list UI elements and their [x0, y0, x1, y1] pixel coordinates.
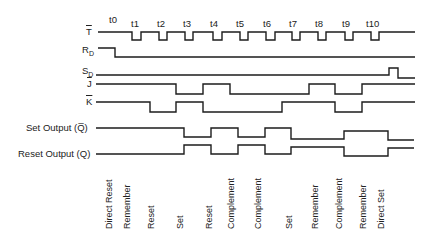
signal-label-sd: SD: [82, 65, 93, 78]
j-waveform: [96, 84, 415, 94]
sd-waveform: [96, 68, 415, 78]
event-label: Direct Reset: [104, 179, 114, 229]
event-label: Reset: [146, 205, 156, 229]
signal-label-rd: RD: [82, 44, 94, 57]
event-label: Complement: [253, 178, 263, 229]
time-label-t7: t7: [289, 18, 297, 29]
time-label-t2: t2: [157, 18, 165, 29]
signal-label-t: T: [86, 26, 92, 37]
event-label: Set: [175, 215, 185, 229]
event-label: Remember: [310, 184, 320, 229]
signal-label-j: J: [87, 78, 92, 89]
time-label-t6: t6: [263, 18, 271, 29]
time-label-t9: t9: [342, 18, 350, 29]
signal-label-set-output: Set Output (Q̅): [26, 122, 88, 133]
k-waveform: [96, 102, 415, 112]
event-label: Direct Set: [376, 189, 386, 229]
time-label-t1: t1: [131, 18, 139, 29]
t-clock-waveform: [98, 32, 415, 40]
set-output-waveform: [96, 128, 414, 140]
time-label-t0: t0: [109, 14, 117, 25]
event-label: Complement: [334, 178, 344, 229]
time-label-t4: t4: [210, 18, 218, 29]
time-label-t8: t8: [315, 18, 323, 29]
event-label: Remember: [122, 184, 132, 229]
event-label: Set: [284, 215, 294, 229]
signal-label-reset-output: Reset Output (Q): [18, 148, 90, 159]
event-label: Remember: [358, 184, 368, 229]
event-label: Complement: [226, 178, 236, 229]
rd-waveform: [98, 48, 415, 57]
signal-label-k: K: [86, 96, 92, 107]
event-label: Reset: [204, 205, 214, 229]
time-label-t10: t10: [366, 18, 379, 29]
time-label-t3: t3: [183, 18, 191, 29]
time-label-t5: t5: [236, 18, 244, 29]
reset-output-waveform: [96, 145, 414, 156]
jk-flipflop-timing-diagram: t0 t1 t2 t3 t4 t5 t6 t7 t8 t9 t10 T RD S…: [0, 0, 433, 249]
